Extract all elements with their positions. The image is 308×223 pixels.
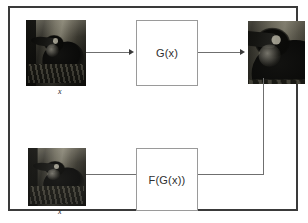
figure-frame: x G(x) [8, 6, 298, 211]
branch-shape [248, 79, 305, 84]
arrow-g-to-generated-line [198, 52, 240, 53]
input-image [26, 20, 86, 86]
arrow-g-to-generated-head [240, 49, 245, 55]
arrow-input-to-g-line [86, 52, 129, 53]
arrow-fg-to-reconstructed-line [83, 174, 136, 175]
arrow-generated-to-fg-vertical [263, 78, 264, 174]
bird-breast-highlight [46, 44, 59, 57]
generator-box[interactable]: G(x) [136, 20, 198, 86]
branch-shape [28, 64, 83, 84]
arrow-generated-to-fg-horizontal [195, 174, 264, 175]
branch-shape [30, 186, 83, 203]
reconstructed-image [28, 148, 86, 206]
reconstruction-box-label: F(G(x)) [149, 174, 186, 186]
generated-image [248, 21, 305, 84]
arrow-input-to-g-head [129, 49, 134, 55]
input-image-caption: x [58, 87, 62, 96]
generator-box-label: G(x) [156, 47, 178, 59]
bird-eye-shape [271, 35, 280, 44]
reconstructed-image-caption: x [58, 207, 62, 216]
reconstruction-box[interactable]: F(G(x)) [136, 148, 198, 211]
figure-canvas: x G(x) [0, 0, 308, 223]
